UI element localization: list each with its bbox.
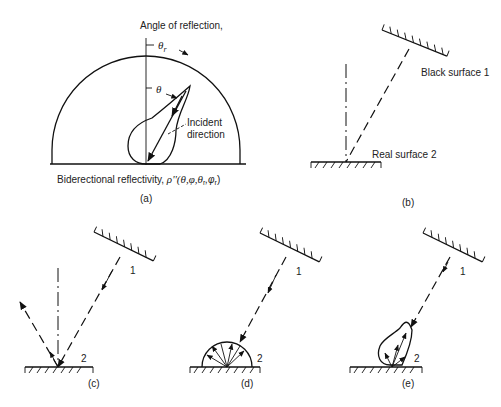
real-surface-2-label: Real surface 2 bbox=[372, 149, 437, 160]
angle-of-reflection-label: Angle of reflection, bbox=[140, 20, 223, 31]
surface-2-label: 2 bbox=[414, 353, 420, 364]
real-surface-2 bbox=[311, 162, 381, 168]
caption-b: (b) bbox=[402, 197, 414, 208]
surface-1 bbox=[423, 228, 485, 262]
surface-2 bbox=[190, 367, 260, 373]
surface-1 bbox=[260, 228, 322, 262]
surface-2-label: 2 bbox=[81, 353, 87, 364]
incident-arrow-icon bbox=[148, 91, 186, 161]
surface-1-label: 1 bbox=[460, 266, 466, 277]
theta-symbol: θ bbox=[156, 83, 162, 95]
caption-e: (e) bbox=[402, 378, 414, 389]
panel-a: Angle of reflection, θr θ Incident direc… bbox=[50, 20, 246, 204]
exchange-path bbox=[346, 49, 409, 162]
panel-e: 1 2 (e) bbox=[350, 228, 485, 389]
black-surface-1-label: Black surface 1 bbox=[421, 67, 490, 78]
surface-2 bbox=[25, 367, 93, 373]
panel-c: 1 2 (c) bbox=[20, 227, 156, 389]
surface-2 bbox=[350, 367, 422, 373]
direction-label: direction bbox=[187, 129, 225, 140]
bidirectional-reflectivity-label: Biderectional reflectivity, ρ''(θ,φ,θr,φ… bbox=[57, 173, 220, 186]
diffuse-arrows-icon bbox=[207, 344, 244, 367]
theta-r-arrow-icon bbox=[179, 50, 188, 55]
surface-1-label: 1 bbox=[296, 266, 302, 277]
black-surface-1 bbox=[382, 24, 449, 56]
surface-1 bbox=[94, 227, 156, 261]
incident-label: Incident bbox=[187, 117, 222, 128]
surface-1-label: 1 bbox=[130, 265, 136, 276]
caption-d: (d) bbox=[241, 378, 253, 389]
reflectivity-figure: Angle of reflection, θr θ Incident direc… bbox=[0, 0, 501, 407]
incident-ray-icon bbox=[411, 257, 450, 327]
panel-b: Black surface 1 Real surface 2 (b) bbox=[311, 24, 490, 208]
theta-arrow-icon bbox=[166, 94, 177, 98]
incident-ray-icon bbox=[240, 257, 286, 342]
caption-c: (c) bbox=[88, 378, 100, 389]
panel-d: 1 2 (d) bbox=[190, 228, 322, 389]
theta-r-symbol: θr bbox=[158, 39, 167, 54]
diffuse-hemisphere bbox=[202, 342, 252, 367]
caption-a: (a) bbox=[140, 193, 152, 204]
surface-2-label: 2 bbox=[257, 353, 263, 364]
